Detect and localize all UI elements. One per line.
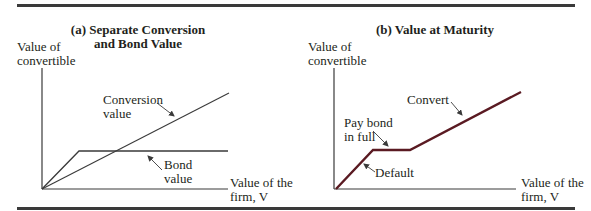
panel-a-axes [42,68,228,189]
bond-value-line [42,151,228,189]
bond-arrow [148,156,162,170]
convert-arrow [451,102,462,115]
panel-b-axes [334,68,516,189]
conversion-arrow [157,103,174,116]
conversion-value-line [42,93,229,189]
default-arrow [364,164,375,172]
pay-bond-arrow [373,131,388,146]
maturity-payoff-line [336,92,521,189]
diagram-graphics [0,0,591,211]
